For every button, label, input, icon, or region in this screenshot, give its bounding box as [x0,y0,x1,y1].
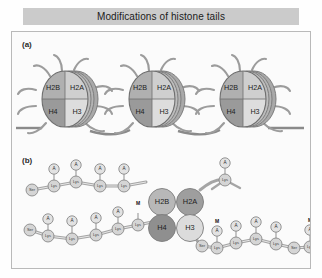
residue-label: Lys [214,245,220,250]
quadrant-label-h3: H3 [250,107,259,116]
residue: A M Lys [304,217,311,253]
core-circle-h3: H3 [177,215,204,242]
residue: A Lys [42,214,54,242]
residue: A Lys [270,222,282,250]
residue: A Lys [230,221,242,249]
residue: A Lys [250,217,262,245]
residue-label: Lys [121,183,127,188]
quadrant-label-h3: H3 [159,107,168,116]
core-circle-h2a: H2A [177,189,204,216]
residue-label: Lys [307,244,311,249]
core-circle-h2b: H2B [149,189,176,216]
residue: A Lys [118,164,130,192]
residue-label: Lys [135,222,141,227]
residue-label: Lys [115,226,121,231]
residue-label: Lys [69,236,75,241]
residue: A Lys [66,216,78,245]
residue-label: Ser [27,227,34,232]
quadrant-label-h2a: H2A [248,83,262,92]
quadrant-label-h2b: H2B [224,83,238,92]
residue: A Lys [70,160,82,188]
core-label-h3: H3 [185,223,194,232]
residue: A Lys [219,158,231,186]
panel-b-group: H2B H2A H4 H3 Ser [24,158,311,254]
residue-label: Lys [222,177,228,182]
residue-label: Lys [93,232,99,237]
quadrant-label-h2a: H2A [157,83,171,92]
residue: A M Lys [211,218,223,254]
diagram-svg: H2B H2A H4 H3 [12,32,311,269]
residue-label: Lys [45,233,51,238]
page-title: Modifications of histone tails [97,11,225,22]
residue: Ser [288,242,300,254]
core-label-h2b: H2B [155,197,169,206]
residue: M Lys [132,200,144,231]
residue: A Lys [90,213,102,241]
modification-mark: A [308,227,311,232]
quadrant-label-h4: H4 [48,107,57,116]
residue-label: Lys [253,236,259,241]
quadrant-label-h2b: H2B [133,83,147,92]
residue: Ser [26,184,38,196]
residue-label: Ser [199,243,206,248]
residue-label: Lys [73,179,79,184]
residue-label: Ser [29,187,36,192]
modification-mark: M [215,218,219,224]
residue-label: Lys [273,241,279,246]
residue-label: Lys [97,183,103,188]
residue: Ser [196,240,208,252]
residue: Ser [24,224,36,236]
quadrant-label-h2a: H2A [70,83,84,92]
quadrant-label-h3: H3 [72,107,81,116]
quadrant-label-h4: H4 [135,107,144,116]
residue-group-h2b: Ser A Lys A Lys [26,160,130,196]
nucleosome-2: H2B H2A H4 H3 [105,55,199,133]
residue-label: Ser [291,245,298,250]
nucleosome-1: H2B H2A H4 H3 [18,55,112,133]
residue: A Lys [112,207,124,235]
residue-group-h3: Ser A M Lys A Lys [196,217,311,254]
residue: A Lys [94,164,106,192]
modification-mark: M [308,217,311,223]
modification-mark: M [136,200,140,206]
panel-a-group: H2B H2A H4 H3 [16,55,304,134]
quadrant-label-h2b: H2B [46,83,60,92]
core-circle-h4: H4 [149,215,176,242]
residue-label: Lys [233,240,239,245]
residue-group-h2a: A Lys [219,158,231,186]
figure-panel: (a) (b) [11,31,311,269]
residue-label: Lys [51,183,57,188]
core-label-h2a: H2A [183,197,197,206]
figure-container: Modifications of histone tails (a) (b) [0,0,322,278]
quadrant-label-h4: H4 [226,107,235,116]
nucleosome-3: H2B H2A H4 H3 [196,55,290,133]
residue: A Lys [48,164,60,192]
core-label-h4: H4 [157,223,166,232]
figure-title-bar: Modifications of histone tails [23,8,299,25]
